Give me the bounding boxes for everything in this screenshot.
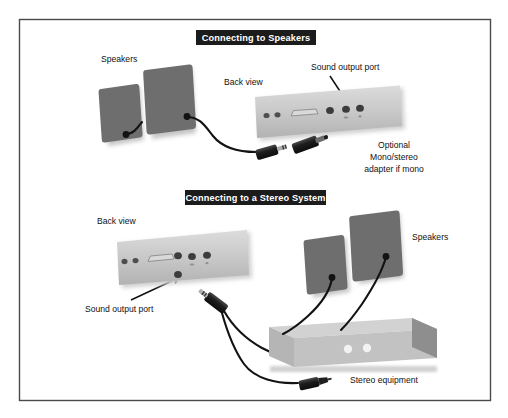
stereo-equipment-label: Stereo equipment [350,375,418,385]
panel-audio-jack-2-top [342,106,350,113]
panel-audio-jack-3-top [356,105,364,112]
sound-output-port-label-top: Sound output port [311,62,380,72]
panel-port-small-2-bottom [133,258,139,263]
panel-port-small-1-top [264,113,270,118]
panel-port-small-1-bottom [122,259,128,264]
connection-diagram: Connecting to Speakers Speakers Back vie… [0,0,508,418]
speakers-section-banner: Connecting to Speakers [196,30,316,45]
note-line-2: Mono/stereo [370,152,418,162]
stereo-knob-2 [363,344,371,352]
stereo-section-banner-text: Connecting to a Stereo System [185,193,325,203]
speaker-right [143,64,196,134]
panel-audio-jack-1-top [326,107,334,114]
figure-root: Connecting to Speakers Speakers Back vie… [0,0,508,418]
panel-audio-jack-3-marking-bottom [205,262,208,264]
sound-output-port-label-bottom: Sound output port [85,304,154,314]
panel-audio-jack-1-bottom [174,271,182,278]
panel-audio-jack-2-bottom [188,253,196,260]
panel-port-small-2-top [275,112,281,117]
back-view-label-top: Back view [224,77,263,87]
note-line-3: adapter if mono [364,164,424,174]
stereo-knob-1 [344,345,352,353]
speakers-label-top: Speakers [101,54,137,64]
speaker-left-jack-dot-bottom [329,274,336,281]
panel-audio-jack-2-marking-top [344,116,349,118]
speaker-right-bottom [349,210,403,281]
speaker-left-jack-dot [123,131,130,138]
back-view-label-bottom: Back view [97,216,136,226]
speaker-left [99,84,143,143]
speaker-right-jack-dot [184,113,191,120]
stereo-section-banner: Connecting to a Stereo System [185,190,326,205]
panel-audio-jack-1b-bottom [174,252,182,259]
note-line-1: Optional [378,140,410,150]
speaker-left-bottom [304,235,348,295]
speakers-section-banner-text: Connecting to Speakers [202,33,310,43]
panel-audio-jack-2-marking-bottom [190,263,195,265]
panel-audio-jack-3-marking-top [358,115,361,117]
panel-audio-jack-3-bottom [203,252,211,259]
speaker-right-jack-dot-bottom [383,253,390,260]
speakers-label-bottom: Speakers [412,232,448,242]
